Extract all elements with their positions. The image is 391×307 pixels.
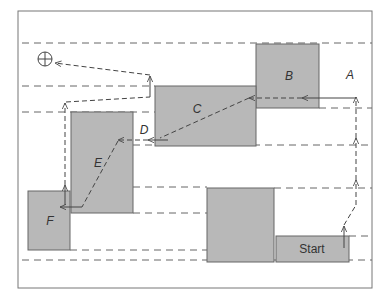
block-e-label: E [94,156,103,170]
block-start-label: Start [299,242,325,256]
label-a: A [345,68,354,82]
block-f: F [28,191,70,250]
label-d: D [140,123,149,137]
block-c: C [155,86,256,146]
block-c-label: C [193,102,202,116]
block-start: Start [276,236,349,262]
goal-crosshair-icon [38,52,52,66]
block-e: E [71,112,133,213]
block-b-label: B [285,69,293,83]
block-f-label: F [46,214,54,228]
block-unlabeled [207,188,274,262]
placement-diagram: Start B C E F A D [0,0,391,307]
